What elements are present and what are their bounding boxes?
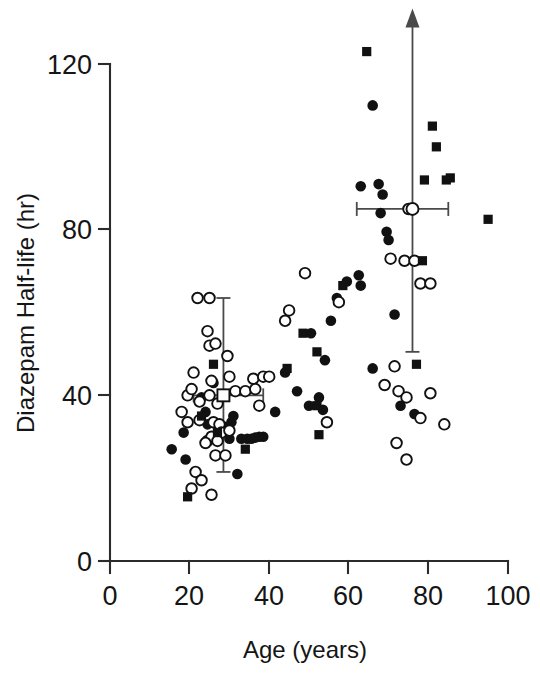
data-point-filled-circle <box>353 270 364 281</box>
data-point-filled-square <box>213 428 222 437</box>
data-point-open-circle <box>196 475 207 486</box>
data-point-filled-circle <box>228 411 239 422</box>
data-point-filled-circle <box>389 309 400 320</box>
x-tick-label-20: 20 <box>174 581 204 611</box>
y-tick-label-120: 120 <box>47 50 92 80</box>
data-point-open-circle <box>206 376 217 387</box>
data-point-open-circle <box>284 305 295 316</box>
data-point-filled-square <box>338 281 347 290</box>
data-point-open-circle <box>192 293 203 304</box>
data-point-filled-circle <box>367 100 378 111</box>
data-point-open-circle <box>322 417 333 428</box>
y-axis-ticks <box>99 64 110 561</box>
data-point-filled-circle <box>373 179 384 190</box>
x-axis-ticks <box>110 561 508 573</box>
x-tick-label-80: 80 <box>413 581 443 611</box>
data-point-filled-circle <box>375 208 386 219</box>
data-point-open-circle <box>389 361 400 372</box>
data-point-open-circle <box>379 380 390 391</box>
x-axis-title: Age (years) <box>243 636 367 663</box>
data-point-filled-square <box>312 347 321 356</box>
x-tick-label-0: 0 <box>102 581 117 611</box>
data-point-open-circle <box>194 396 205 407</box>
errorbar-up-arrow <box>405 9 419 28</box>
data-point-filled-square <box>183 492 192 501</box>
data-point-filled-square <box>362 47 371 56</box>
data-point-open-circle <box>210 338 221 349</box>
data-point-filled-square <box>283 364 292 373</box>
data-point-open-circle <box>182 417 193 428</box>
y-tick-label-80: 80 <box>62 215 92 245</box>
data-point-filled-circle <box>367 363 378 374</box>
data-point-open-circle <box>224 425 235 436</box>
data-point-open-circle <box>439 419 450 430</box>
data-point-filled-circle <box>178 427 189 438</box>
data-point-filled-circle <box>180 454 191 465</box>
data-point-open-circle <box>220 450 231 461</box>
data-point-filled-square <box>314 430 323 439</box>
young-group-mean-marker <box>217 389 229 401</box>
data-point-open-circle <box>415 413 426 424</box>
plot-canvas: 120 80 40 0 0 20 40 60 80 100 Age (years… <box>0 0 540 684</box>
data-point-filled-square <box>197 411 206 420</box>
data-point-filled-square <box>241 445 250 454</box>
data-point-filled-circle <box>377 189 388 200</box>
data-point-open-circle <box>280 315 291 326</box>
elderly-group-mean-marker-errorbar <box>357 9 449 352</box>
data-point-open-circle <box>391 438 402 449</box>
data-point-filled-circle <box>270 407 281 418</box>
data-point-open-circle <box>200 438 211 449</box>
data-point-filled-square <box>432 142 441 151</box>
data-point-filled-square <box>298 329 307 338</box>
x-tick-label-100: 100 <box>485 581 530 611</box>
data-point-open-circle <box>186 384 197 395</box>
data-point-open-circle <box>401 392 412 403</box>
data-point-open-circle <box>385 253 396 264</box>
data-point-open-circle <box>176 407 187 418</box>
y-tick-label-40: 40 <box>62 381 92 411</box>
data-point-filled-circle <box>383 235 394 246</box>
data-point-filled-square <box>209 360 218 369</box>
data-point-filled-circle <box>326 315 337 326</box>
x-tick-label-40: 40 <box>254 581 284 611</box>
data-point-filled-circle <box>258 431 269 442</box>
data-point-filled-square <box>312 401 321 410</box>
data-point-open-circle <box>206 489 217 500</box>
scatter-plot-figure: 120 80 40 0 0 20 40 60 80 100 Age (years… <box>0 0 540 684</box>
data-point-open-circle <box>204 293 215 304</box>
data-point-filled-square <box>420 175 429 184</box>
data-point-open-circle <box>401 454 412 465</box>
data-point-filled-circle <box>292 386 303 397</box>
data-point-open-circle <box>300 268 311 279</box>
data-point-filled-square <box>484 215 493 224</box>
data-point-open-circle <box>240 386 251 397</box>
data-point-open-circle <box>188 367 199 378</box>
data-point-open-circle <box>334 297 345 308</box>
x-tick-label-60: 60 <box>333 581 363 611</box>
data-point-open-circle <box>425 278 436 289</box>
data-point-open-circle <box>222 351 233 362</box>
data-point-open-circle <box>254 400 265 411</box>
data-point-filled-square <box>418 256 427 265</box>
data-point-open-circle <box>425 388 436 399</box>
data-point-filled-square <box>428 122 437 131</box>
data-point-filled-square <box>412 360 421 369</box>
data-point-filled-circle <box>355 181 366 192</box>
data-point-filled-square <box>446 173 455 182</box>
y-tick-label-0: 0 <box>77 547 92 577</box>
data-point-open-circle <box>202 326 213 337</box>
data-point-open-circle <box>248 373 259 384</box>
data-point-open-circle <box>224 371 235 382</box>
data-point-open-circle <box>264 371 275 382</box>
y-axis-title: Diazepam Half-life (hr) <box>12 193 39 433</box>
elderly-group-mean-marker <box>406 203 418 215</box>
data-points-layer <box>166 47 492 501</box>
data-point-open-circle <box>250 384 261 395</box>
data-point-filled-circle <box>355 280 366 291</box>
data-point-filled-circle <box>232 469 243 480</box>
data-point-filled-circle <box>166 444 177 455</box>
